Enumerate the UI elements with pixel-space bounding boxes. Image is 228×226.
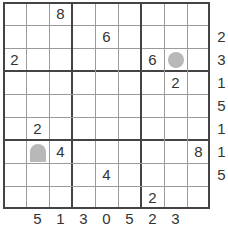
col-clue-7: 2: [141, 210, 164, 226]
col-clue-4: 3: [72, 210, 95, 226]
col-clue-5: 0: [95, 210, 118, 226]
col-clue-2: 5: [26, 210, 49, 226]
col-clue-3: 1: [49, 210, 72, 226]
col-clue-6: 5: [118, 210, 141, 226]
row-clue-7: 1: [215, 140, 228, 163]
row-clue-6: 1: [215, 117, 228, 140]
puzzle-board: 8626224842: [3, 2, 210, 209]
col-clue-9: [187, 210, 210, 226]
row-clue-3: 3: [215, 48, 228, 71]
row-clue-1: [215, 2, 228, 25]
row-clue-5: 5: [215, 94, 228, 117]
board-border: [3, 2, 210, 209]
row-clue-4: 1: [215, 71, 228, 94]
row-clue-2: 2: [215, 25, 228, 48]
row-clue-9: [215, 186, 228, 209]
col-clue-8: 3: [164, 210, 187, 226]
row-clue-8: 5: [215, 163, 228, 186]
col-clue-1: [3, 210, 26, 226]
